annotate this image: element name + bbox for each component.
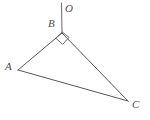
vertex-label-b: B: [48, 18, 55, 29]
segment-AB: [18, 33, 62, 70]
geometry-canvas: [0, 0, 150, 120]
vertex-label-c: C: [132, 99, 139, 110]
segment-AC: [18, 70, 128, 101]
vertex-label-a: A: [5, 61, 12, 72]
geometry-figure: A B C O: [0, 0, 150, 120]
segment-BO: [62, 3, 63, 33]
vertex-label-o: O: [65, 3, 73, 14]
segment-BC: [62, 33, 128, 101]
